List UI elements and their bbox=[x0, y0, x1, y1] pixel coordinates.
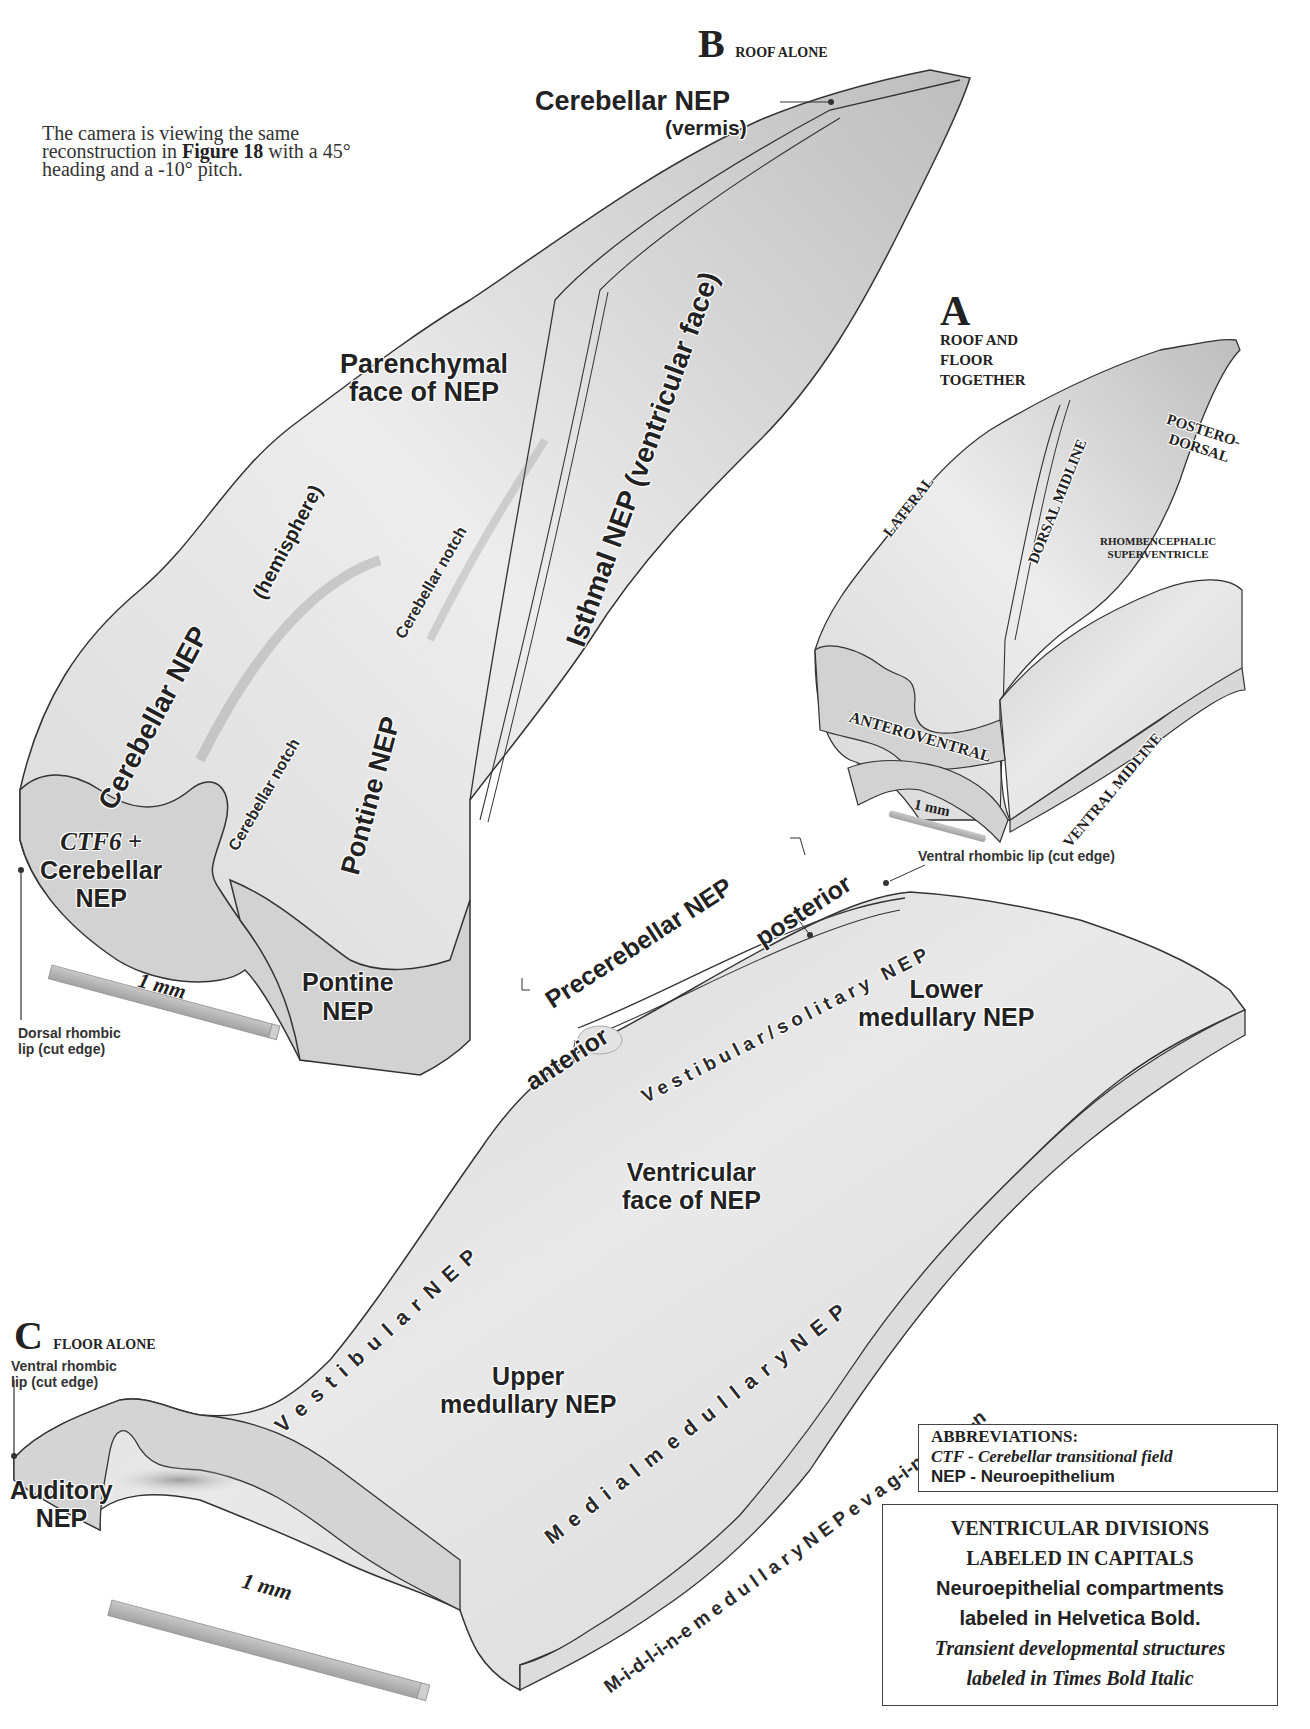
abbreviations-box: ABBREVIATIONS: CTF - Cerebellar transiti… bbox=[918, 1424, 1278, 1492]
label-ctf6-cerebellar: Cerebellar bbox=[40, 856, 162, 884]
panel-b-heading: B ROOF ALONE bbox=[698, 20, 828, 67]
label-parenchymal-face: Parenchymal face of NEP bbox=[340, 350, 508, 406]
label-dorsal-rhombic-lip: Dorsal rhombic lip (cut edge) bbox=[18, 1025, 121, 1057]
label-auditory-nep: Auditory NEP bbox=[10, 1476, 113, 1532]
label-lower-line-1: Lower bbox=[858, 975, 1034, 1003]
panel-c-heading: C FLOOR ALONE bbox=[14, 1312, 156, 1359]
label-pontine-section-line-2: NEP bbox=[302, 997, 394, 1026]
label-upper-line-2: medullary NEP bbox=[440, 1390, 616, 1418]
abbreviations-title: ABBREVIATIONS: bbox=[931, 1427, 1277, 1447]
panel-a-letter: A bbox=[940, 292, 1026, 330]
panel-c-letter: C bbox=[14, 1313, 43, 1358]
panel-a-heading: A ROOF AND FLOOR TOGETHER bbox=[940, 292, 1026, 390]
label-pontine-nep-section: Pontine NEP bbox=[302, 968, 394, 1026]
legend-line-5: Transient developmental structures bbox=[883, 1633, 1277, 1663]
label-vermis: (vermis) bbox=[665, 116, 747, 140]
label-parenchymal-line-1: Parenchymal bbox=[340, 350, 508, 378]
label-upper-line-1: Upper bbox=[440, 1362, 616, 1390]
label-ventricular-line-2: face of NEP bbox=[622, 1186, 761, 1214]
panel-b-letter: B bbox=[698, 21, 725, 66]
panel-a-title-line-3: TOGETHER bbox=[940, 370, 1026, 390]
label-dorsal-lip-line-1: Dorsal rhombic bbox=[18, 1025, 121, 1041]
label-superventricle-line-2: SUPERVENTRICLE bbox=[1100, 548, 1216, 561]
label-lower-medullary-nep: Lower medullary NEP bbox=[858, 975, 1034, 1031]
panel-a-title-line-2: FLOOR bbox=[940, 350, 1026, 370]
panel-c-title: FLOOR ALONE bbox=[53, 1337, 155, 1352]
label-rhombencephalic-superventricle: RHOMBENCEPHALIC SUPERVENTRICLE bbox=[1100, 535, 1216, 561]
label-superventricle-line-1: RHOMBENCEPHALIC bbox=[1100, 535, 1216, 548]
intro-caption: The camera is viewing the same reconstru… bbox=[42, 124, 462, 178]
label-ctf6-cerebellar-nep: CTF6 + Cerebellar NEP bbox=[40, 828, 162, 912]
label-ctf6: CTF6 + bbox=[40, 828, 162, 856]
legend-line-3: Neuroepithelial compartments bbox=[883, 1573, 1277, 1603]
legend-line-1: VENTRICULAR DIVISIONS bbox=[883, 1513, 1277, 1543]
label-dorsal-lip-line-2: lip (cut edge) bbox=[18, 1041, 121, 1057]
label-auditory-line-2: NEP bbox=[10, 1504, 113, 1532]
panel-a-title: ROOF AND FLOOR TOGETHER bbox=[940, 330, 1026, 390]
label-auditory-line-1: Auditory bbox=[10, 1476, 113, 1504]
panel-a-title-line-1: ROOF AND bbox=[940, 330, 1026, 350]
panel-c-scale-bar bbox=[108, 1600, 430, 1701]
abbreviation-nep: NEP - Neuroepithelium bbox=[931, 1467, 1277, 1487]
legend-line-4: labeled in Helvetica Bold. bbox=[883, 1603, 1277, 1633]
legend-line-2: LABELED IN CAPITALS bbox=[883, 1543, 1277, 1573]
abbreviation-ctf: CTF - Cerebellar transitional field bbox=[931, 1447, 1277, 1467]
label-upper-medullary-nep: Upper medullary NEP bbox=[440, 1362, 616, 1418]
label-pontine-section-line-1: Pontine bbox=[302, 968, 394, 997]
label-ventral-rhombic-lip-top: Ventral rhombic lip (cut edge) bbox=[918, 848, 1115, 864]
label-ventral-lip-left-line-1: Ventral rhombic bbox=[11, 1358, 117, 1374]
legend-line-6: labeled in Times Bold Italic bbox=[883, 1663, 1277, 1693]
label-ventral-lip-left-line-2: lip (cut edge) bbox=[11, 1374, 117, 1390]
panel-b-title: ROOF ALONE bbox=[735, 45, 827, 60]
label-lower-line-2: medullary NEP bbox=[858, 1003, 1034, 1031]
legend-box: VENTRICULAR DIVISIONS LABELED IN CAPITAL… bbox=[882, 1504, 1278, 1706]
label-ventral-rhombic-lip-left: Ventral rhombic lip (cut edge) bbox=[11, 1358, 117, 1390]
label-cerebellar-nep-vermis: Cerebellar NEP bbox=[535, 86, 730, 117]
label-ventricular-face: Ventricular face of NEP bbox=[622, 1158, 761, 1214]
label-ctf6-nep: NEP bbox=[40, 884, 162, 912]
label-ventricular-line-1: Ventricular bbox=[622, 1158, 761, 1186]
intro-line-2-post: with a 45° bbox=[263, 140, 350, 162]
label-parenchymal-line-2: face of NEP bbox=[340, 378, 508, 406]
intro-line-3: heading and a -10° pitch. bbox=[42, 160, 462, 178]
